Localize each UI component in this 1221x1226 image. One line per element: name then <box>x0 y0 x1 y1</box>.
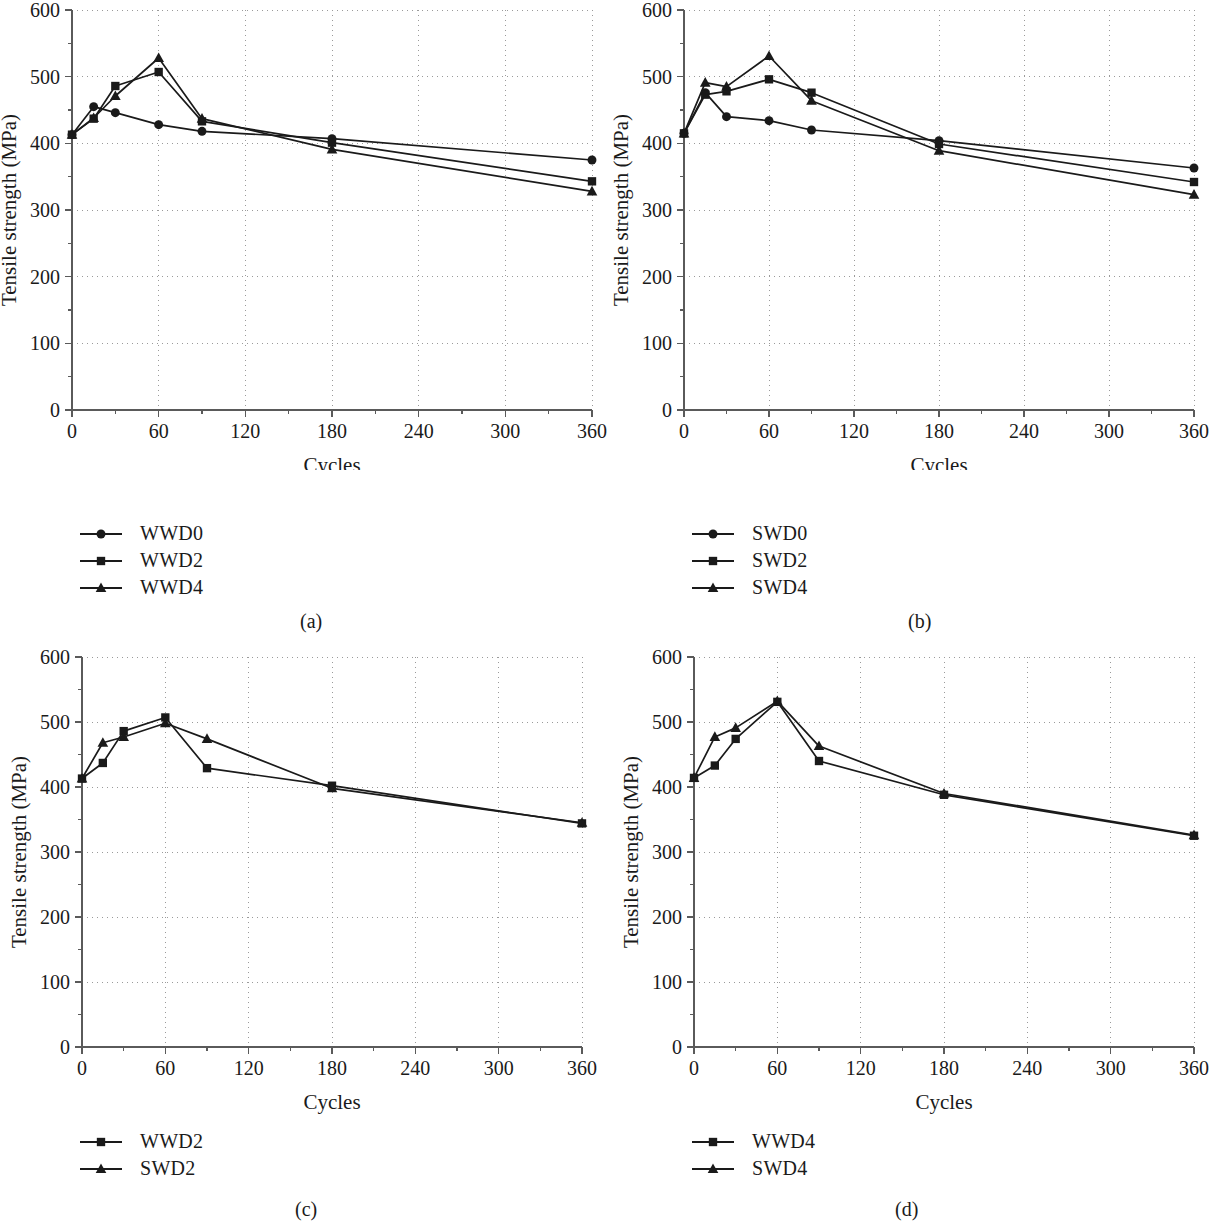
svg-text:500: 500 <box>652 711 682 733</box>
svg-text:0: 0 <box>60 1036 70 1058</box>
figure-root: 0601201802403003600100200300400500600Cyc… <box>0 0 1221 1226</box>
legend-label: SWD4 <box>752 576 808 599</box>
legend-symbol <box>690 578 736 598</box>
svg-text:60: 60 <box>767 1057 787 1079</box>
svg-text:400: 400 <box>642 132 672 154</box>
svg-text:500: 500 <box>30 66 60 88</box>
panel-label-b: (b) <box>908 610 931 633</box>
svg-text:100: 100 <box>652 971 682 993</box>
svg-text:100: 100 <box>40 971 70 993</box>
svg-text:400: 400 <box>40 776 70 798</box>
svg-text:400: 400 <box>30 132 60 154</box>
svg-text:200: 200 <box>652 906 682 928</box>
legend-b: SWD0SWD2SWD4 <box>690 520 808 601</box>
svg-text:120: 120 <box>839 420 869 442</box>
legend-label: WWD0 <box>140 522 203 545</box>
svg-text:0: 0 <box>50 399 60 421</box>
chart-panel-b: 0601201802403003600100200300400500600Cyc… <box>612 0 1221 470</box>
svg-text:200: 200 <box>642 266 672 288</box>
legend-item-wwd2[interactable]: WWD2 <box>78 1128 203 1155</box>
svg-text:Tensile strength (MPa): Tensile strength (MPa) <box>619 756 643 948</box>
svg-text:300: 300 <box>490 420 520 442</box>
legend-symbol <box>690 1132 736 1152</box>
legend-item-swd2[interactable]: SWD2 <box>690 547 808 574</box>
legend-item-wwd4[interactable]: WWD4 <box>690 1128 815 1155</box>
chart-d-svg: 0601201802403003600100200300400500600Cyc… <box>612 645 1221 1115</box>
svg-text:Cycles: Cycles <box>915 1090 972 1114</box>
svg-text:300: 300 <box>652 841 682 863</box>
legend-symbol <box>690 551 736 571</box>
svg-text:Cycles: Cycles <box>303 453 360 470</box>
legend-marker-circle-icon <box>78 524 124 544</box>
svg-text:60: 60 <box>759 420 779 442</box>
svg-text:300: 300 <box>1094 420 1124 442</box>
svg-text:180: 180 <box>317 420 347 442</box>
svg-text:400: 400 <box>652 776 682 798</box>
legend-marker-square-icon <box>78 1132 124 1152</box>
legend-marker-square-icon <box>78 551 124 571</box>
svg-text:600: 600 <box>642 0 672 21</box>
legend-label: WWD2 <box>140 1130 203 1153</box>
svg-text:100: 100 <box>642 332 672 354</box>
svg-text:200: 200 <box>40 906 70 928</box>
svg-text:300: 300 <box>642 199 672 221</box>
legend-label: SWD2 <box>140 1157 196 1180</box>
svg-text:200: 200 <box>30 266 60 288</box>
legend-label: WWD2 <box>140 549 203 572</box>
legend-marker-triangle-icon <box>690 1159 736 1179</box>
legend-marker-circle-icon <box>690 524 736 544</box>
legend-item-wwd4[interactable]: WWD4 <box>78 574 203 601</box>
legend-marker-square-icon <box>690 551 736 571</box>
svg-text:100: 100 <box>30 332 60 354</box>
svg-text:120: 120 <box>846 1057 876 1079</box>
svg-text:180: 180 <box>317 1057 347 1079</box>
legend-item-swd0[interactable]: SWD0 <box>690 520 808 547</box>
legend-symbol <box>78 551 124 571</box>
legend-symbol <box>78 524 124 544</box>
svg-text:500: 500 <box>40 711 70 733</box>
panel-label-c: (c) <box>295 1198 317 1221</box>
chart-a-svg: 0601201802403003600100200300400500600Cyc… <box>0 0 620 470</box>
svg-text:240: 240 <box>1009 420 1039 442</box>
svg-text:Tensile strength (MPa): Tensile strength (MPa) <box>7 756 31 948</box>
svg-text:0: 0 <box>67 420 77 442</box>
svg-text:600: 600 <box>40 646 70 668</box>
svg-text:240: 240 <box>404 420 434 442</box>
legend-label: SWD0 <box>752 522 808 545</box>
svg-text:0: 0 <box>662 399 672 421</box>
legend-label: WWD4 <box>140 576 203 599</box>
svg-text:120: 120 <box>234 1057 264 1079</box>
legend-marker-triangle-icon <box>690 578 736 598</box>
legend-item-swd4[interactable]: SWD4 <box>690 1155 815 1182</box>
legend-c: WWD2SWD2 <box>78 1128 203 1182</box>
panel-label-d: (d) <box>895 1198 918 1221</box>
svg-text:60: 60 <box>155 1057 175 1079</box>
svg-text:Tensile strength (MPa): Tensile strength (MPa) <box>0 114 21 306</box>
legend-d: WWD4SWD4 <box>690 1128 815 1182</box>
svg-text:360: 360 <box>577 420 607 442</box>
legend-marker-square-icon <box>690 1132 736 1152</box>
svg-text:0: 0 <box>77 1057 87 1079</box>
legend-symbol <box>78 578 124 598</box>
svg-text:300: 300 <box>1096 1057 1126 1079</box>
svg-text:600: 600 <box>652 646 682 668</box>
svg-text:360: 360 <box>567 1057 597 1079</box>
chart-c-svg: 0601201802403003600100200300400500600Cyc… <box>0 645 620 1115</box>
legend-symbol <box>690 524 736 544</box>
legend-symbol <box>690 1159 736 1179</box>
svg-text:300: 300 <box>40 841 70 863</box>
svg-text:120: 120 <box>230 420 260 442</box>
legend-item-wwd0[interactable]: WWD0 <box>78 520 203 547</box>
legend-label: WWD4 <box>752 1130 815 1153</box>
chart-panel-c: 0601201802403003600100200300400500600Cyc… <box>0 645 620 1115</box>
legend-marker-triangle-icon <box>78 1159 124 1179</box>
legend-item-swd2[interactable]: SWD2 <box>78 1155 203 1182</box>
svg-text:Cycles: Cycles <box>910 453 967 470</box>
svg-text:240: 240 <box>1012 1057 1042 1079</box>
legend-item-swd4[interactable]: SWD4 <box>690 574 808 601</box>
svg-text:240: 240 <box>400 1057 430 1079</box>
legend-item-wwd2[interactable]: WWD2 <box>78 547 203 574</box>
svg-text:0: 0 <box>679 420 689 442</box>
svg-text:600: 600 <box>30 0 60 21</box>
svg-text:Cycles: Cycles <box>303 1090 360 1114</box>
